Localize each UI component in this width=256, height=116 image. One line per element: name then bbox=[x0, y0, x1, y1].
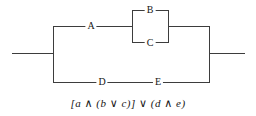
switch-e-label: E bbox=[153, 77, 163, 87]
switch-c-label: C bbox=[145, 38, 156, 48]
right-junction-wire bbox=[209, 26, 210, 83]
switch-d-label: D bbox=[96, 77, 107, 87]
boolean-formula: [a ∧ (b ∨ c)] ∨ (d ∧ e) bbox=[0, 97, 256, 109]
switch-b-label: B bbox=[145, 5, 156, 15]
output-wire bbox=[209, 53, 245, 54]
branch-de-wire bbox=[53, 82, 210, 83]
input-wire bbox=[12, 53, 53, 54]
switching-circuit-diagram: A B C D E [a ∧ (b ∨ c)] ∨ (d ∧ e) bbox=[0, 0, 256, 116]
left-junction-wire bbox=[53, 26, 54, 83]
box-output-wire bbox=[169, 26, 209, 27]
switch-a-label: A bbox=[85, 21, 96, 31]
